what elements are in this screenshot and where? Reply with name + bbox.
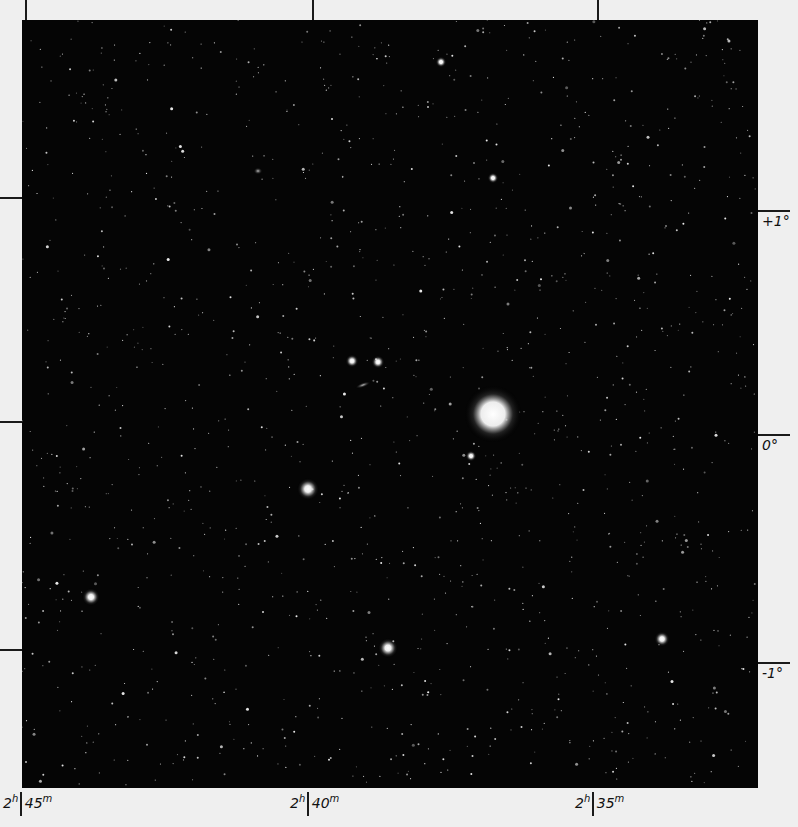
ra-tick-top: [312, 0, 314, 20]
dec-label: +1°: [762, 213, 790, 229]
ra-tick-bottom: [307, 792, 309, 816]
ra-hours-unit: h: [299, 793, 305, 804]
ra-minutes: 40: [312, 795, 330, 811]
ra-minutes-unit: m: [615, 793, 625, 804]
ra-hours: 2: [290, 795, 299, 811]
ra-hours: 2: [3, 795, 12, 811]
ra-hours-unit: h: [12, 793, 18, 804]
star-field-plate: [22, 20, 758, 788]
dec-tick-left: [0, 649, 22, 651]
dec-tick-left: [0, 197, 22, 199]
ra-tick-top: [25, 0, 27, 20]
dec-tick-right: [758, 434, 790, 436]
ra-minutes: 45: [25, 795, 43, 811]
dec-label: 0°: [762, 437, 778, 453]
ra-hours-unit: h: [584, 793, 590, 804]
dec-tick-right: [758, 662, 790, 664]
ra-minutes: 35: [597, 795, 615, 811]
ra-hours: 2: [575, 795, 584, 811]
ra-tick-bottom: [20, 792, 22, 816]
dec-label: -1°: [762, 665, 783, 681]
dec-tick-right: [758, 210, 790, 212]
ra-minutes-unit: m: [330, 793, 340, 804]
ra-minutes-unit: m: [43, 793, 53, 804]
star-field: [22, 20, 758, 788]
ra-tick-top: [597, 0, 599, 20]
ra-label: 2h35m: [575, 792, 624, 816]
ra-label: 2h45m: [3, 792, 52, 816]
ra-label: 2h40m: [290, 792, 339, 816]
ra-tick-bottom: [592, 792, 594, 816]
dec-tick-left: [0, 421, 22, 423]
